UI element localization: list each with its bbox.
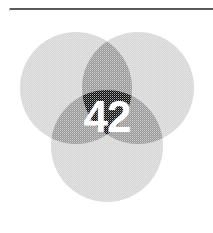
venn-center-label: 42 xyxy=(84,92,131,141)
venn-diagram-svg: 42 xyxy=(0,0,213,233)
page-root: 42 xyxy=(0,0,213,233)
venn-diagram-figure: 42 xyxy=(0,0,213,233)
